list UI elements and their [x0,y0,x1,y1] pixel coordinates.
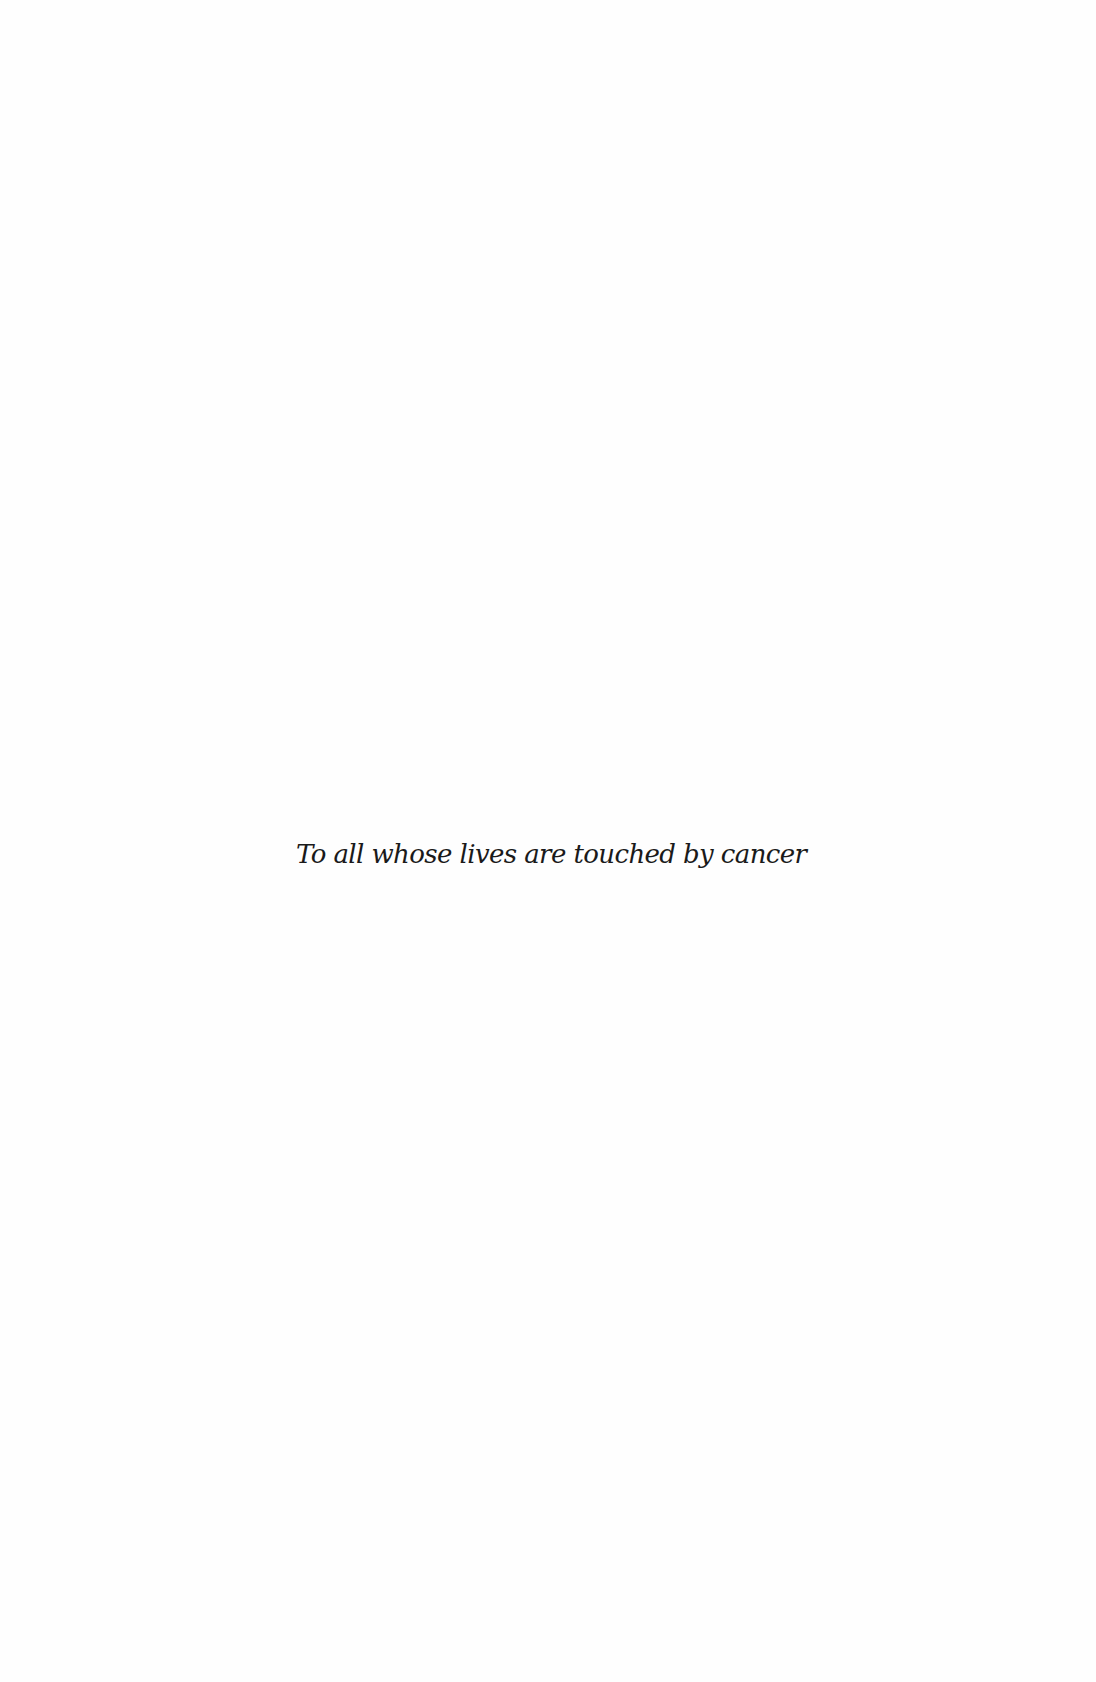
book-page: To all whose lives are touched by cancer [0,0,1096,1682]
dedication-text: To all whose lives are touched by cancer [296,836,766,872]
